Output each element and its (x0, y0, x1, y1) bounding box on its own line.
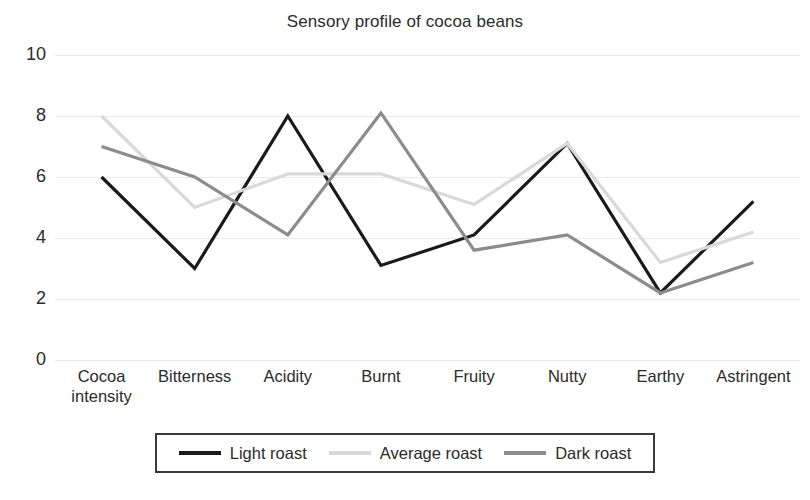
legend-item[interactable]: Average roast (329, 444, 482, 463)
legend-swatch-icon (329, 451, 371, 455)
x-axis-tick-label: Earthy (614, 366, 707, 416)
series-line-dark-roast (102, 113, 754, 293)
x-axis: Cocoa intensityBitternessAcidityBurntFru… (55, 366, 800, 416)
x-axis-tick-label: Cocoa intensity (55, 366, 148, 416)
chart-container: Sensory profile of cocoa beans 0246810 C… (0, 0, 810, 500)
legend-item[interactable]: Light roast (179, 444, 307, 463)
series-line-average-roast (102, 116, 754, 262)
legend-swatch-icon (504, 451, 546, 455)
legend-label: Dark roast (555, 444, 631, 463)
x-axis-tick-label: Nutty (521, 366, 614, 416)
chart-legend: Light roastAverage roastDark roast (155, 433, 655, 473)
x-axis-tick-label: Astringent (707, 366, 800, 416)
chart-series-layer (0, 0, 810, 500)
legend-label: Light roast (230, 444, 307, 463)
x-axis-tick-label: Burnt (334, 366, 427, 416)
x-axis-tick-label: Acidity (241, 366, 334, 416)
x-axis-tick-label: Fruity (428, 366, 521, 416)
legend-swatch-icon (179, 451, 221, 455)
legend-label: Average roast (380, 444, 482, 463)
x-axis-tick-label: Bitterness (148, 366, 241, 416)
legend-item[interactable]: Dark roast (504, 444, 631, 463)
